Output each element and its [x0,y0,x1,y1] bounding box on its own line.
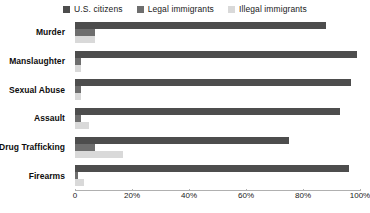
bar-group: Firearms [0,161,370,190]
bar-stack [75,161,360,190]
bar-stack [75,75,360,104]
chart-legend: U.S. citizensLegal immigrantsIllegal imm… [0,2,370,16]
bar[interactable] [75,172,78,179]
category-label: Firearms [0,161,70,190]
category-label: Sexual Abuse [0,75,70,104]
x-tick-label: 20% [124,191,140,200]
bar-group: Assault [0,104,370,133]
bar[interactable] [75,137,289,144]
legend-entry[interactable]: U.S. citizens [63,5,123,14]
bar[interactable] [75,115,81,122]
legend-label: U.S. citizens [74,5,123,14]
bar[interactable] [75,79,351,86]
bar-group: Drug Trafficking [0,133,370,162]
x-tick-label: 40% [181,191,197,200]
bar-stack [75,133,360,162]
plot-area: MurderManslaughterSexual AbuseAssaultDru… [0,18,370,196]
legend-entry[interactable]: Illegal immigrants [228,5,307,14]
bar[interactable] [75,179,84,186]
bar[interactable] [75,108,340,115]
bar[interactable] [75,36,95,43]
x-tick-label: 0 [73,191,77,200]
legend-entry[interactable]: Legal immigrants [137,5,214,14]
x-axis-ticks: 020%40%60%80%100% [0,191,370,205]
bar[interactable] [75,93,81,100]
category-label: Drug Trafficking [0,133,70,162]
legend-label: Legal immigrants [148,5,214,14]
legend-swatch-icon [228,6,235,13]
x-tick-label: 100% [350,191,370,200]
bar[interactable] [75,29,95,36]
bar-stack [75,104,360,133]
bar-chart: U.S. citizensLegal immigrantsIllegal imm… [0,0,370,213]
category-label: Murder [0,18,70,47]
legend-swatch-icon [137,6,144,13]
bar-group: Sexual Abuse [0,75,370,104]
category-label: Manslaughter [0,47,70,76]
category-label: Assault [0,104,70,133]
bar[interactable] [75,151,123,158]
bar[interactable] [75,122,89,129]
bar-stack [75,47,360,76]
x-tick-label: 60% [238,191,254,200]
bar[interactable] [75,65,81,72]
bar[interactable] [75,144,95,151]
bar-stack [75,18,360,47]
bar-groups: MurderManslaughterSexual AbuseAssaultDru… [0,18,370,190]
legend-swatch-icon [63,6,70,13]
x-tick-label: 80% [295,191,311,200]
legend-label: Illegal immigrants [239,5,307,14]
bar[interactable] [75,86,81,93]
bar[interactable] [75,58,81,65]
bar[interactable] [75,51,357,58]
bar[interactable] [75,22,326,29]
bar[interactable] [75,165,349,172]
bar-group: Manslaughter [0,47,370,76]
bar-group: Murder [0,18,370,47]
